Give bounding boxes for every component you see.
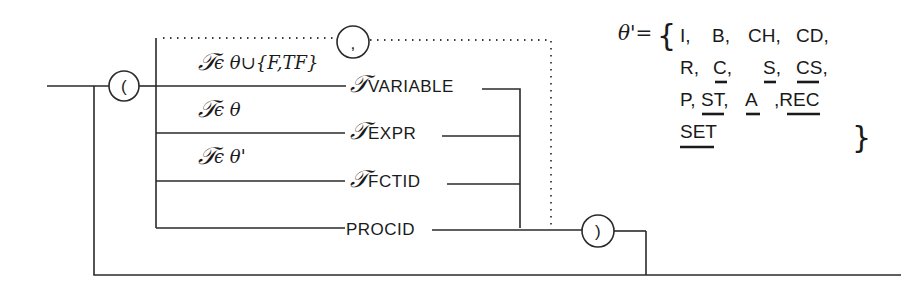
svg-text:ϵ θ∪{F,TF}: ϵ θ∪{F,TF} <box>214 52 319 73</box>
svg-text:I,: I, <box>680 25 691 46</box>
svg-text:CS,: CS, <box>796 57 828 78</box>
svg-text:{: { <box>657 18 676 53</box>
svg-text:ϵ θ': ϵ θ' <box>214 146 246 167</box>
svg-text:CD,: CD, <box>796 25 829 46</box>
svg-text:FCTID: FCTID <box>368 172 421 191</box>
svg-text:B,: B, <box>712 25 730 46</box>
svg-text:R,: R, <box>680 57 699 78</box>
alternative-fctid: 𝒯 ϵ θ' 𝒯 FCTID <box>156 142 520 193</box>
open-paren-node: ( <box>109 71 139 101</box>
svg-text:}: } <box>852 120 871 155</box>
alternative-procid: PROCID <box>156 220 582 239</box>
alternative-expr: 𝒯 ϵ θ 𝒯 EXPR <box>156 95 520 145</box>
svg-text:θ'=: θ'= <box>618 21 652 45</box>
svg-text:SET: SET <box>680 121 717 142</box>
svg-text:ST,: ST, <box>701 89 728 110</box>
svg-text:VARIABLE: VARIABLE <box>368 77 454 96</box>
theta-prime-definition: θ'= { } I, B, CH, CD, R, C, S, CS, P, ST… <box>618 18 871 155</box>
svg-text:A: A <box>745 89 758 110</box>
svg-text:): ) <box>595 222 601 241</box>
svg-text:(: ( <box>121 77 127 96</box>
svg-text:CH,: CH, <box>748 25 781 46</box>
syntax-diagram: ( , 𝒯 ϵ θ∪{F,TF} 𝒯 VARIABLE 𝒯 ϵ θ 𝒯 EXPR… <box>0 0 901 296</box>
svg-text:C,: C, <box>713 57 732 78</box>
svg-text:ϵ θ: ϵ θ <box>214 99 241 120</box>
svg-text:EXPR: EXPR <box>368 124 416 143</box>
svg-text:P,: P, <box>680 89 696 110</box>
comma-separator-node: , <box>337 26 369 58</box>
alternative-variable: 𝒯 ϵ θ∪{F,TF} 𝒯 VARIABLE <box>156 48 520 228</box>
svg-text:,: , <box>350 34 355 53</box>
svg-text:S,: S, <box>763 57 781 78</box>
svg-text:,REC: ,REC <box>774 89 819 110</box>
close-paren-node: ) <box>582 215 614 247</box>
svg-text:PROCID: PROCID <box>346 220 415 239</box>
